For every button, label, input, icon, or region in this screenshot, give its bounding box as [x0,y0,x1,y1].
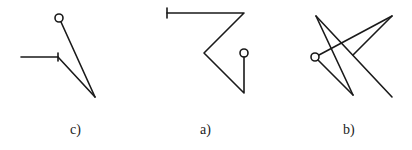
end-circle [240,49,248,57]
figure-label-c: c) [70,122,81,138]
segment [319,16,392,55]
segment [353,16,392,55]
figure-a [167,8,248,93]
figure-c [21,14,95,97]
end-circle [55,14,63,22]
segment [58,57,95,97]
figure-label-b: b) [343,122,355,138]
figure-b [311,16,392,97]
end-circle [311,53,319,61]
segment [316,16,353,95]
figure-label-a: a) [200,122,211,138]
zigzag-path [167,13,244,93]
segment [61,22,95,97]
segment [318,60,353,95]
